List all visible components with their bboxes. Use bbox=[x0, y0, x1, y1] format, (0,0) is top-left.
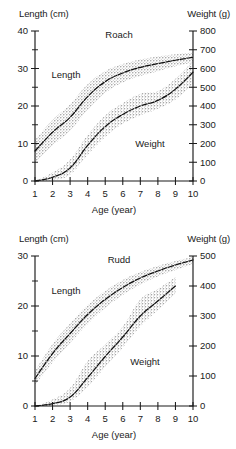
x-axis-title: Age (year) bbox=[92, 429, 136, 440]
y2-tick-label: 300 bbox=[200, 310, 216, 321]
length-series-label: Length bbox=[51, 285, 80, 296]
y2-tick-label: 200 bbox=[200, 340, 216, 351]
y2-tick-label: 400 bbox=[200, 280, 216, 291]
axis-spines bbox=[35, 31, 193, 181]
y-tick-label: 20 bbox=[17, 300, 28, 311]
y-tick-label: 0 bbox=[23, 400, 28, 411]
figure-growth-curves: Length (cm) Weight (g) 01020304001002003… bbox=[0, 0, 236, 449]
x-tick-label: 9 bbox=[173, 188, 178, 199]
x-tick-label: 3 bbox=[67, 188, 72, 199]
x-tick-label: 8 bbox=[155, 413, 160, 424]
y-tick-label: 10 bbox=[17, 138, 28, 149]
y2-tick-label: 0 bbox=[200, 175, 205, 186]
x-tick-label: 1 bbox=[32, 413, 37, 424]
x-tick-label: 6 bbox=[120, 188, 125, 199]
y-tick-label: 30 bbox=[17, 63, 28, 74]
x-tick-label: 7 bbox=[138, 188, 143, 199]
x-tick-label: 10 bbox=[188, 188, 199, 199]
plot-area-rudd: 0102030010020030040050012345678910Age (y… bbox=[0, 225, 236, 449]
x-tick-label: 5 bbox=[103, 188, 108, 199]
x-tick-label: 6 bbox=[120, 413, 125, 424]
y2-tick-label: 0 bbox=[200, 400, 205, 411]
y2-tick-label: 700 bbox=[200, 44, 216, 55]
x-tick-label: 4 bbox=[85, 413, 90, 424]
y2-tick-label: 200 bbox=[200, 138, 216, 149]
species-label: Roach bbox=[105, 29, 132, 40]
y2-tick-label: 100 bbox=[200, 157, 216, 168]
axis-spines bbox=[35, 256, 193, 406]
band-length bbox=[35, 257, 193, 385]
y2-tick-label: 500 bbox=[200, 82, 216, 93]
x-tick-label: 5 bbox=[103, 413, 108, 424]
x-tick-label: 2 bbox=[50, 413, 55, 424]
x-tick-label: 7 bbox=[138, 413, 143, 424]
y2-tick-label: 800 bbox=[200, 25, 216, 36]
x-tick-label: 8 bbox=[155, 188, 160, 199]
y2-tick-label: 500 bbox=[200, 250, 216, 261]
weight-series-label: Weight bbox=[135, 138, 165, 149]
x-axis-title: Age (year) bbox=[92, 204, 136, 215]
confidence-bands bbox=[35, 257, 193, 406]
x-tick-label: 1 bbox=[32, 188, 37, 199]
weight-series-label: Weight bbox=[130, 356, 160, 367]
y2-tick-label: 600 bbox=[200, 63, 216, 74]
y-tick-label: 30 bbox=[17, 250, 28, 261]
x-tick-label: 4 bbox=[85, 188, 90, 199]
species-label: Rudd bbox=[108, 254, 131, 265]
plot-area-roach: 0102030400100200300400500600700800123456… bbox=[0, 0, 236, 225]
y-tick-label: 40 bbox=[17, 25, 28, 36]
y-tick-label: 10 bbox=[17, 350, 28, 361]
y2-tick-label: 300 bbox=[200, 119, 216, 130]
panel-rudd: Length (cm) Weight (g) 01020300100200300… bbox=[0, 225, 236, 449]
y2-tick-label: 100 bbox=[200, 370, 216, 381]
panel-roach: Length (cm) Weight (g) 01020304001002003… bbox=[0, 0, 236, 225]
curve-length bbox=[35, 260, 193, 379]
y-tick-label: 20 bbox=[17, 100, 28, 111]
y-tick-label: 0 bbox=[23, 175, 28, 186]
length-series-label: Length bbox=[51, 69, 80, 80]
y2-tick-label: 400 bbox=[200, 100, 216, 111]
x-tick-label: 9 bbox=[173, 413, 178, 424]
x-tick-label: 2 bbox=[50, 188, 55, 199]
x-tick-label: 10 bbox=[188, 413, 199, 424]
x-tick-label: 3 bbox=[67, 413, 72, 424]
